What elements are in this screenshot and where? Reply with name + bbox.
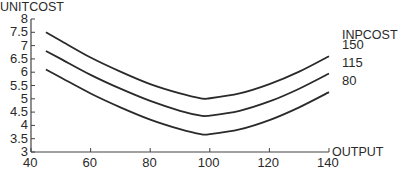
series-115-line: [46, 51, 329, 116]
legend-label-80: 80: [342, 73, 356, 88]
x-tick-label: 40: [23, 155, 37, 170]
y-tick-label: 3.5: [10, 131, 28, 146]
y-tick-label: 7: [21, 38, 28, 53]
x-tick-label: 60: [83, 155, 97, 170]
x-tick-label: 140: [317, 155, 339, 170]
y-tick-label: 5: [21, 91, 28, 106]
series-150-line: [46, 32, 329, 99]
y-tick-label: 5.5: [10, 78, 28, 93]
x-tick-label: 120: [257, 155, 279, 170]
legend-label-115: 115: [342, 55, 363, 70]
y-tick-label: 8: [21, 11, 28, 26]
y-tick-label: 6.5: [10, 51, 28, 66]
y-tick-label: 6: [21, 64, 28, 79]
curves: [46, 32, 329, 134]
y-tick-label: 4.5: [10, 104, 28, 119]
legend-label-150: 150: [342, 37, 364, 52]
x-tick-label: 100: [198, 155, 220, 170]
x-tick-label: 80: [142, 155, 156, 170]
y-tick-label: 7.5: [10, 24, 28, 39]
y-tick-label: 4: [21, 117, 28, 132]
y-axis-label: UNITCOST: [0, 0, 64, 14]
series-80-line: [46, 70, 329, 135]
x-axis-label: OUTPUT: [332, 145, 383, 159]
